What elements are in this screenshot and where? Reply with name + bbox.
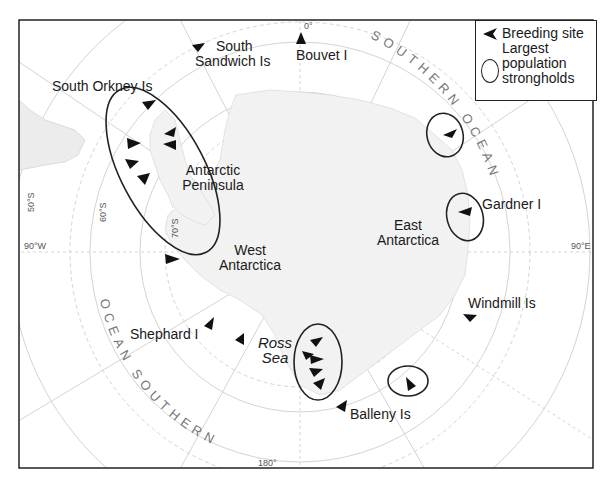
label-bouvet: Bouvet I [296,48,347,63]
tierra-del-fuego-land [19,100,85,170]
label-balleny: Balleny Is [350,407,411,422]
label-west-antarctica: West Antarctica [210,243,290,273]
label-antarctic-peninsula: Antarctic Peninsula [178,163,248,193]
label-south-sandwich-1: South [216,39,253,54]
stronghold-legend-icon [481,59,499,83]
breeding-site-east-1[interactable] [443,129,457,138]
tick-60s: 60°S [98,202,108,222]
tick-90w: 90°W [24,241,46,251]
ocean-label-bottom: OCEAN SOUTHERN [97,297,221,449]
tick-180: 180° [258,458,277,468]
breeding-site-ross-west[interactable] [235,333,244,345]
legend-strongholds-line2: population [502,56,574,71]
breeding-site-balleny[interactable] [336,400,347,412]
breeding-site-balleny-east[interactable] [406,377,416,391]
tick-0: 0° [304,21,313,31]
breeding-site-bouvet[interactable] [296,32,306,44]
breeding-site-shephard[interactable] [204,317,214,330]
label-south-sandwich-2: Sandwich Is [195,54,270,69]
legend-strongholds-line3: strongholds [502,71,574,86]
breeding-site-west-antarctica[interactable] [165,254,180,264]
tick-90e: 90°E [571,241,591,251]
breeding-site-peninsula-5[interactable] [137,173,150,185]
legend: Breeding site Largest population strongh… [475,20,597,101]
tick-50s: 50°S [26,192,36,212]
breeding-site-south-orkney[interactable] [142,100,156,110]
breeding-site-windmill[interactable] [463,314,477,322]
legend-strongholds-label: Largest population strongholds [502,41,574,86]
label-windmill: Windmill Is [468,296,536,311]
breeding-site-legend-icon [483,28,497,40]
label-ross-sea: Ross Sea [255,335,295,365]
label-gardner: Gardner I [482,197,541,212]
breeding-site-peninsula-4[interactable] [125,159,139,169]
legend-strongholds-line1: Largest [502,41,574,56]
label-east-antarctica: East Antarctica [368,218,448,248]
label-shephard: Shephard I [130,327,199,342]
legend-breeding-site-label: Breeding site [502,25,584,41]
tick-70s: 70°S [170,218,180,238]
label-south-orkney: South Orkney Is [52,79,152,94]
